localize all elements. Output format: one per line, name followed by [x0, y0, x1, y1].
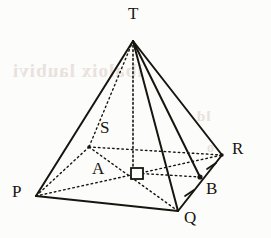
vertex-label-P: P: [12, 183, 21, 200]
edge-TS: [89, 41, 133, 147]
edge-TB: [133, 41, 200, 177]
visible-edges-group: [36, 41, 222, 211]
vertex-label-B: B: [206, 180, 217, 197]
edge-TR: [133, 41, 222, 155]
geometry-figure: ibaloix laubivi ld o: [0, 0, 271, 238]
edge-RS: [89, 147, 222, 155]
point-S-dot: [87, 145, 90, 148]
point-R-dot: [220, 153, 223, 156]
edge-TQ: [133, 41, 178, 211]
vertex-label-Q: Q: [184, 209, 196, 226]
right-angle-marker: [131, 168, 143, 179]
vertex-label-T: T: [128, 5, 138, 22]
hidden-edges-group: [36, 41, 222, 211]
vertex-label-A: A: [92, 160, 104, 177]
vertex-label-S: S: [100, 119, 109, 136]
pyramid-diagram: [0, 0, 271, 238]
edge-TP: [36, 41, 133, 196]
point-B-dot: [197, 174, 202, 179]
vertex-label-R: R: [232, 140, 243, 157]
edge-PQ: [36, 196, 178, 211]
